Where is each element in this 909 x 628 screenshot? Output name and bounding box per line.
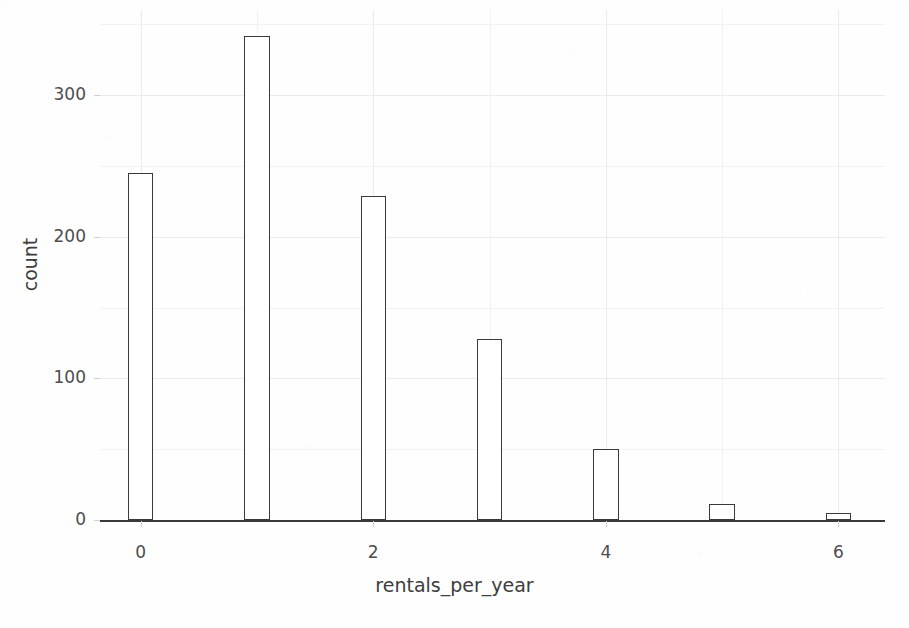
y-tick-label: 300 bbox=[54, 86, 86, 103]
bar bbox=[826, 513, 852, 520]
bar bbox=[244, 36, 270, 521]
y-gridline-minor bbox=[100, 308, 885, 309]
chart-figure: count rentals_per_year 01002003000246 bbox=[0, 0, 909, 628]
x-tick-label: 0 bbox=[101, 544, 181, 561]
bar bbox=[593, 449, 619, 520]
y-tick-label: 0 bbox=[75, 511, 86, 528]
y-gridline-major bbox=[100, 237, 885, 238]
y-tick-mark bbox=[94, 520, 100, 521]
x-gridline-major bbox=[838, 10, 839, 520]
y-gridline-major bbox=[100, 95, 885, 96]
bar bbox=[477, 339, 503, 520]
plot-panel bbox=[100, 10, 885, 520]
y-tick-mark bbox=[94, 95, 100, 96]
x-tick-mark bbox=[373, 521, 374, 527]
x-tick-mark bbox=[606, 521, 607, 527]
x-tick-label: 4 bbox=[566, 544, 646, 561]
x-tick-label: 2 bbox=[333, 544, 413, 561]
x-tick-mark bbox=[141, 521, 142, 527]
y-gridline-minor bbox=[100, 24, 885, 25]
y-tick-mark bbox=[94, 378, 100, 379]
x-gridline-major bbox=[606, 10, 607, 520]
x-tick-mark bbox=[838, 521, 839, 527]
y-axis-title: count bbox=[21, 235, 40, 295]
bar bbox=[709, 504, 735, 520]
y-tick-label: 200 bbox=[54, 228, 86, 245]
x-axis-baseline bbox=[100, 520, 885, 522]
x-tick-label: 6 bbox=[798, 544, 878, 561]
bar bbox=[361, 196, 387, 520]
x-axis-title: rentals_per_year bbox=[0, 576, 909, 595]
x-gridline-minor bbox=[722, 10, 723, 520]
y-tick-mark bbox=[94, 237, 100, 238]
y-tick-label: 100 bbox=[54, 369, 86, 386]
y-gridline-minor bbox=[100, 166, 885, 167]
bar bbox=[128, 173, 154, 520]
